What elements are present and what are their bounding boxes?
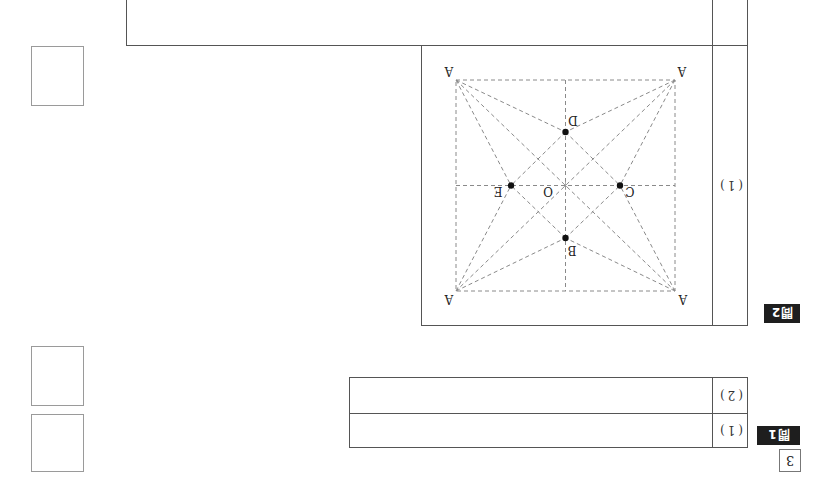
score-box-3-value [32, 415, 83, 471]
center-label-o: O [541, 184, 555, 198]
point-label-d: D [566, 113, 580, 127]
point-label-b: B [565, 243, 579, 257]
point-d [562, 129, 568, 135]
corner-label-br: A [676, 292, 690, 306]
score-box-2-value [32, 347, 83, 405]
score-box-2[interactable] [31, 346, 84, 406]
score-box-1[interactable] [31, 46, 84, 106]
point-label-e: E [491, 184, 505, 198]
score-box-1-value [32, 47, 83, 105]
square-diagram[interactable] [0, 0, 834, 500]
point-b [562, 235, 568, 241]
point-e [508, 182, 514, 188]
corner-label-bl: A [442, 292, 456, 306]
point-label-c: C [623, 184, 637, 198]
corner-label-tl: A [442, 64, 456, 78]
corner-label-tr: A [675, 64, 689, 78]
score-box-3[interactable] [31, 414, 84, 472]
